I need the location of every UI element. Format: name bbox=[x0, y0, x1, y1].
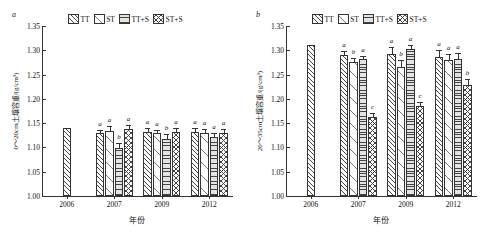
y-axis-tick-label: 1.00 bbox=[27, 192, 43, 201]
legend-item-tt-plus-s[interactable]: TT+S bbox=[363, 14, 393, 24]
bar bbox=[435, 57, 444, 196]
x-axis-tick-label: 2009 bbox=[398, 200, 413, 209]
error-bar-cap bbox=[398, 60, 403, 61]
x-axis-tick-mark bbox=[406, 196, 407, 199]
legend-item-st[interactable]: ST bbox=[338, 14, 359, 24]
y-axis-tick-label: 1.35 bbox=[271, 22, 287, 31]
bar bbox=[143, 132, 152, 196]
y-axis-tick-mark bbox=[287, 50, 290, 51]
plot-area: 1.001.051.101.151.201.251.301.352006abac… bbox=[286, 26, 477, 197]
significance-letter: a bbox=[127, 115, 131, 123]
significance-letter: a bbox=[146, 118, 150, 126]
error-bar-cap bbox=[465, 79, 470, 80]
error-bar-cap bbox=[202, 129, 207, 130]
bar bbox=[307, 45, 316, 196]
error-bar-cap bbox=[126, 125, 131, 126]
error-bar-cap bbox=[164, 134, 169, 135]
legend-label: ST bbox=[350, 15, 359, 24]
error-bar-cap bbox=[154, 130, 159, 131]
error-bar-cap bbox=[408, 45, 413, 46]
x-axis-tick-label: 2007 bbox=[351, 200, 366, 209]
y-axis-tick-label: 1.25 bbox=[271, 70, 287, 79]
y-axis-tick-mark bbox=[287, 26, 290, 27]
bar bbox=[124, 129, 133, 196]
significance-letter: a bbox=[361, 46, 365, 54]
legend-label: ST+S bbox=[410, 15, 427, 24]
significance-letter: a bbox=[222, 119, 226, 127]
bar bbox=[406, 49, 415, 196]
significance-letter: a bbox=[174, 118, 178, 126]
bar bbox=[387, 54, 396, 196]
bar bbox=[340, 55, 349, 196]
legend-swatch-diagonal-hatch-icon bbox=[312, 14, 323, 24]
y-axis-tick-mark bbox=[287, 147, 290, 148]
y-axis-tick-mark bbox=[43, 75, 46, 76]
significance-letter: a bbox=[212, 123, 216, 131]
legend: TTSTTT+SST+S bbox=[68, 14, 183, 24]
y-axis-tick-mark bbox=[287, 123, 290, 124]
y-axis-tick-mark bbox=[43, 147, 46, 148]
legend-label: TT bbox=[81, 15, 90, 24]
legend-item-st-plus-s[interactable]: ST+S bbox=[153, 14, 183, 24]
significance-letter: a bbox=[390, 37, 394, 45]
bar bbox=[210, 137, 219, 196]
significance-letter: a bbox=[108, 116, 112, 124]
error-bar-cap bbox=[389, 47, 394, 48]
error-bar-cap bbox=[446, 54, 451, 55]
bar bbox=[172, 132, 181, 196]
bar bbox=[200, 133, 209, 196]
x-axis-tick-label: 2006 bbox=[303, 200, 318, 209]
bar bbox=[397, 67, 406, 196]
plot-area: 1.001.051.101.151.201.251.301.352006aaba… bbox=[42, 26, 233, 197]
y-axis-tick-label: 1.30 bbox=[27, 46, 43, 55]
x-axis-tick-mark bbox=[162, 196, 163, 199]
y-axis-tick-mark bbox=[43, 123, 46, 124]
y-axis-tick-label: 1.05 bbox=[271, 167, 287, 176]
y-axis-tick-label: 1.35 bbox=[27, 22, 43, 31]
x-axis-tick-label: 2012 bbox=[446, 200, 461, 209]
y-axis-tick-mark bbox=[43, 172, 46, 173]
legend-label: ST+S bbox=[166, 15, 183, 24]
bar bbox=[162, 139, 171, 196]
legend-item-st[interactable]: ST bbox=[94, 14, 115, 24]
significance-letter: b bbox=[466, 69, 470, 77]
x-axis-tick-mark bbox=[358, 196, 359, 199]
legend-item-tt-plus-s[interactable]: TT+S bbox=[119, 14, 149, 24]
error-bar-cap bbox=[351, 58, 356, 59]
y-axis-tick-mark bbox=[287, 75, 290, 76]
legend-swatch-sparse-diagonal-hatch-icon bbox=[338, 14, 349, 24]
error-bar-cap bbox=[417, 102, 422, 103]
y-axis-tick-label: 1.30 bbox=[271, 46, 287, 55]
error-bar bbox=[439, 50, 440, 57]
bar bbox=[63, 128, 72, 196]
significance-letter: b bbox=[399, 50, 403, 58]
y-axis-tick-mark bbox=[43, 196, 46, 197]
significance-letter: a bbox=[155, 120, 159, 128]
legend-item-tt[interactable]: TT bbox=[68, 14, 90, 24]
significance-letter: a bbox=[409, 35, 413, 43]
bar bbox=[463, 85, 472, 196]
bar bbox=[349, 62, 358, 196]
bar bbox=[115, 148, 124, 196]
legend-swatch-diagonal-hatch-icon bbox=[68, 14, 79, 24]
legend-item-st-plus-s[interactable]: ST+S bbox=[397, 14, 427, 24]
y-axis-tick-label: 1.05 bbox=[27, 167, 43, 176]
error-bar-cap bbox=[116, 143, 121, 144]
error-bar-cap bbox=[455, 53, 460, 54]
y-axis-tick-label: 1.20 bbox=[271, 94, 287, 103]
bar bbox=[444, 60, 453, 196]
x-axis-title: 年份 bbox=[129, 214, 145, 225]
chart-panel-b: b20～35cm土壤容重/(g/cm³)1.001.051.101.151.20… bbox=[244, 0, 488, 238]
y-axis-tick-label: 1.10 bbox=[271, 143, 287, 152]
legend-item-tt[interactable]: TT bbox=[312, 14, 334, 24]
bar bbox=[368, 117, 377, 196]
significance-letter: a bbox=[342, 41, 346, 49]
y-axis-tick-mark bbox=[287, 172, 290, 173]
error-bar-cap bbox=[341, 51, 346, 52]
error-bar-cap bbox=[192, 128, 197, 129]
error-bar-cap bbox=[360, 56, 365, 57]
bar bbox=[219, 133, 228, 196]
bar bbox=[105, 131, 114, 196]
legend-label: ST bbox=[106, 15, 115, 24]
y-axis-tick-mark bbox=[287, 196, 290, 197]
